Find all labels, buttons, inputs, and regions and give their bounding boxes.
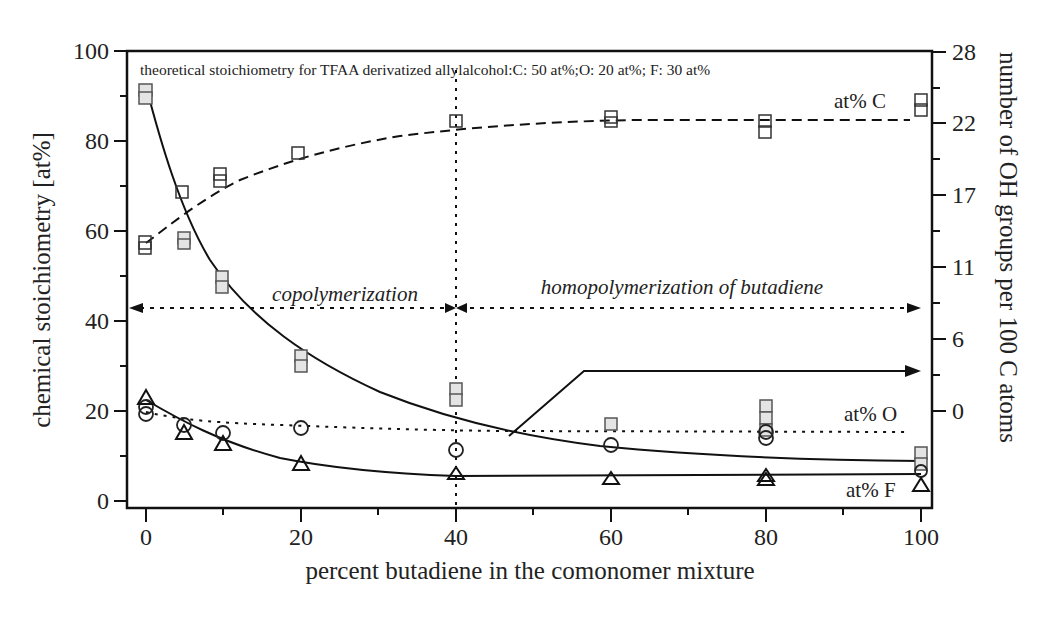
y-tick-label: 0 (97, 488, 109, 514)
y-tick-label: 100 (73, 38, 109, 64)
region-label-homopolymerization: homopolymerization of butadiene (541, 275, 823, 299)
x-tick-label: 0 (140, 524, 152, 550)
y-axis-left (114, 51, 127, 501)
y2-tick-label: 0 (952, 398, 964, 424)
y-tick-label: 60 (85, 218, 109, 244)
y-tick-label: 40 (85, 308, 109, 334)
series-label-f: at% F (846, 478, 896, 502)
x-axis-labels: 0 20 40 60 80 100 (140, 524, 939, 550)
series-o-markers (139, 400, 927, 477)
series-label-o: at% O (844, 402, 897, 426)
y-axis-right (932, 52, 946, 411)
y-tick-label: 20 (85, 398, 109, 424)
y-axis-left-labels: 0 20 40 60 80 100 (73, 38, 109, 514)
fit-curve-oh (146, 86, 921, 461)
chart: 0 20 40 60 80 100 chemical stoichiometry… (0, 0, 1046, 617)
y2-tick-label: 28 (952, 39, 976, 65)
y-tick-label: 80 (85, 128, 109, 154)
x-axis (146, 508, 921, 522)
y2-tick-label: 22 (952, 110, 976, 136)
x-tick-label: 40 (444, 524, 468, 550)
y2-tick-label: 6 (952, 326, 964, 352)
series-label-c: at% C (834, 89, 886, 113)
fit-curve-o (146, 412, 910, 432)
x-tick-label: 20 (289, 524, 313, 550)
x-tick-label: 80 (754, 524, 778, 550)
x-tick-label: 60 (599, 524, 623, 550)
x-axis-title: percent butadiene in the comonomer mixtu… (305, 557, 754, 584)
y2-tick-label: 17 (952, 182, 976, 208)
y2-tick-label: 11 (952, 254, 975, 280)
fit-curve-c (146, 120, 910, 243)
theoretical-stoichiometry-note: theoretical stoichiometry for TFAA deriv… (140, 61, 710, 78)
region-label-copolymerization: copolymerization (272, 282, 418, 306)
y2-axis-title: number of OH groups per 100 C atoms (995, 52, 1022, 443)
fit-curve-f (146, 400, 921, 476)
y-axis-right-labels: 0 6 11 17 22 28 (952, 39, 976, 424)
x-tick-label: 100 (903, 524, 939, 550)
y-axis-title: chemical stoichiometry [at%] (28, 132, 55, 428)
